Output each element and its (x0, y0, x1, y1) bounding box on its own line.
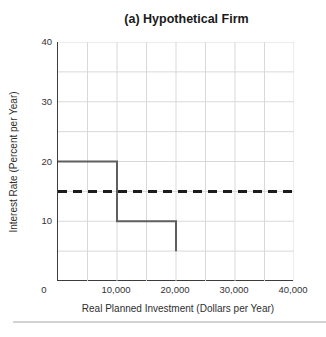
plot-svg (58, 42, 294, 281)
x-tick-label: 20,000 (145, 284, 205, 296)
x-tick-label: 30,000 (204, 284, 264, 296)
x-axis-title: Real Planned Investment (Dollars per Yea… (30, 303, 326, 314)
x-tick-label: 40,000 (263, 284, 323, 296)
x-tick-label: 0 (14, 284, 74, 296)
bottom-divider (13, 321, 326, 323)
y-tick-label: 20 (28, 156, 52, 168)
x-tick-label: 10,000 (86, 284, 146, 296)
y-tick-label: 40 (28, 36, 52, 48)
plot-area (57, 42, 293, 281)
chart-title: (a) Hypothetical Firm (57, 12, 316, 26)
y-tick-label: 10 (28, 215, 52, 227)
y-axis-title: Interest Rate (Percent per Year) (8, 91, 19, 232)
y-tick-label: 30 (28, 96, 52, 108)
chart-figure: (a) Hypothetical Firm Interest Rate (Per… (0, 0, 326, 337)
